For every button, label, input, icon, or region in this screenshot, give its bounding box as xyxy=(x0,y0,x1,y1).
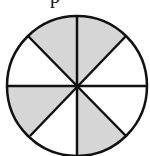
sector-top-right-upper xyxy=(77,10,140,86)
fraction-circle-diagram xyxy=(0,0,150,156)
center-dot xyxy=(75,84,80,89)
